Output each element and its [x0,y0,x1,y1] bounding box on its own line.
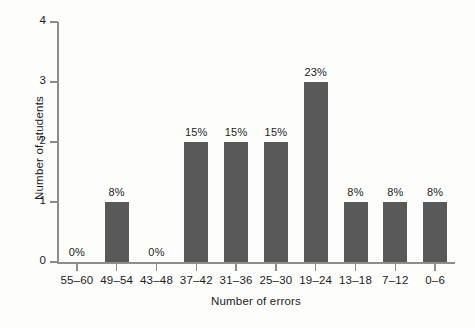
histogram-chart: 01234 55–6049–5443–4837–4231–3625–3019–2… [0,0,475,328]
bar [224,142,248,262]
y-tick-0 [50,261,58,263]
x-tick-8 [395,263,397,271]
y-tick-1 [50,201,58,203]
y-tick-2 [50,141,58,143]
x-tick-6 [315,263,317,271]
y-tick-4 [50,21,58,23]
bar [105,202,129,262]
bar-value-label: 15% [251,126,301,138]
x-tick-0 [76,263,78,271]
y-tick-label-4: 4 [24,14,46,26]
x-tick-3 [196,263,198,271]
bar-value-label: 23% [291,66,341,78]
bar [264,142,288,262]
x-tick-7 [355,263,357,271]
bar [383,202,407,262]
x-tick-label-9: 0–6 [405,274,465,286]
bar-value-label: 0% [52,246,102,258]
bar [423,202,447,262]
bar-value-label: 0% [132,246,182,258]
x-tick-4 [235,263,237,271]
bar [184,142,208,262]
bar-value-label: 8% [410,186,460,198]
x-tick-9 [434,263,436,271]
x-tick-1 [116,263,118,271]
bar [344,202,368,262]
x-tick-5 [275,263,277,271]
x-tick-2 [156,263,158,271]
x-axis-title: Number of errors [57,295,455,307]
y-axis-title: Number of students [33,68,45,228]
y-tick-label-0: 0 [24,254,46,266]
y-tick-3 [50,81,58,83]
bar-value-label: 8% [92,186,142,198]
bar [304,82,328,262]
